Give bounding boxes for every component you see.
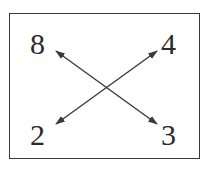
label-top-right: 4 xyxy=(161,29,176,59)
label-bottom-left: 2 xyxy=(30,120,45,150)
label-bottom-right: 3 xyxy=(161,120,176,150)
label-top-left: 8 xyxy=(30,29,45,59)
